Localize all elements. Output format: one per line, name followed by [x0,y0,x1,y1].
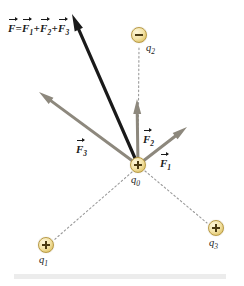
charge-sign-q1 [39,238,53,252]
charge-label-sub-q2: 2 [151,47,155,56]
charge-sign-q2 [132,28,146,42]
charge-marker-q0 [130,157,146,173]
formula-term3: F [58,22,66,34]
resultant-force-formula: F=F1+F2+F3 [8,22,69,37]
formula-term1: F [22,22,30,34]
force-label-F3: F3 [76,143,87,158]
force-label-F2: F2 [143,133,154,148]
charge-label-sub-q1: 1 [44,259,48,268]
force-label-sub-F1: 1 [167,163,171,172]
formula-lhs: F [8,22,16,34]
charge-marker-q2 [131,27,147,43]
force-label-name-F1: F [160,157,167,169]
charge-label-q1: q1 [39,254,48,268]
force-label-name-F3: F [76,143,83,155]
dashed-line-q0-q1 [54,172,132,240]
dashed-line-q0-q3 [145,171,207,223]
force-label-F1: F1 [160,157,171,172]
charge-label-q2: q2 [146,42,155,56]
charge-label-sub-q3: 3 [214,242,218,251]
charge-label-sub-q0: 0 [136,179,140,188]
force-superposition-figure: F=F1+F2+F3 q0q2q1q3 F3F2F1 [0,0,244,286]
formula-term3-sub: 3 [66,28,70,37]
force-label-sub-F2: 2 [150,139,154,148]
charge-marker-q3 [208,220,224,236]
force-label-sub-F3: 3 [83,149,87,158]
formula-term2: F [40,22,48,34]
charge-sign-q0 [131,158,145,172]
force-label-name-F2: F [143,133,150,145]
vector-diagram-canvas [0,0,244,286]
charge-marker-q1 [38,237,54,253]
charge-label-q0: q0 [131,174,140,188]
bottom-divider-bar [14,274,226,279]
charge-label-q3: q3 [209,237,218,251]
charge-sign-q3 [209,221,223,235]
